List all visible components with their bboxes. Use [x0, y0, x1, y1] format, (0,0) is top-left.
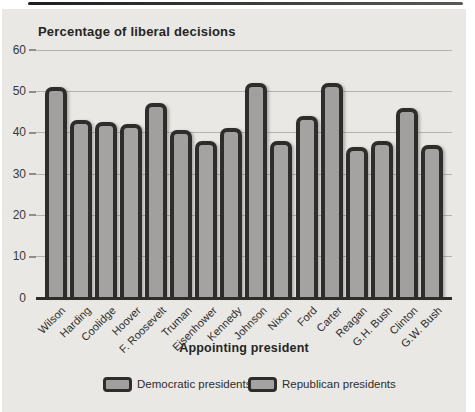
bar-hoover	[120, 124, 142, 297]
legend-label-republican: Republican presidents	[282, 378, 396, 390]
y-tick-label-40: 40	[0, 126, 26, 138]
y-tick-label-20: 20	[0, 209, 26, 221]
gridline-y-60	[33, 50, 452, 51]
y-tick-mark-30	[29, 173, 36, 175]
x-axis-baseline	[36, 297, 452, 300]
y-tick-label-30: 30	[0, 168, 26, 180]
chart-title: Percentage of liberal decisions	[38, 24, 236, 39]
legend-label-democratic: Democratic presidents	[137, 378, 251, 390]
bar-clinton	[396, 108, 418, 298]
y-tick-mark-50	[29, 91, 36, 93]
bar-g-w-bush	[421, 145, 443, 298]
gridline-y-50	[33, 91, 452, 92]
bar-johnson	[245, 83, 267, 298]
bar-coolidge	[95, 122, 117, 298]
liberal-decisions-bar-chart: Percentage of liberal decisions 01020304…	[0, 0, 475, 412]
bar-wilson	[45, 87, 67, 298]
bar-carter	[321, 83, 343, 298]
y-tick-label-0: 0	[0, 292, 26, 304]
y-tick-label-10: 10	[0, 250, 26, 262]
legend-swatch-republican	[248, 377, 277, 392]
bar-g-h-bush	[371, 141, 393, 298]
y-tick-label-50: 50	[0, 85, 26, 97]
bar-reagan	[346, 147, 368, 298]
y-tick-label-60: 60	[0, 44, 26, 56]
bar-truman	[170, 130, 192, 297]
y-tick-mark-40	[29, 132, 36, 134]
x-axis-title: Appointing president	[36, 341, 452, 355]
bar-nixon	[270, 141, 292, 298]
bar-ford	[296, 116, 318, 298]
y-tick-mark-60	[29, 49, 36, 51]
bar-harding	[70, 120, 92, 298]
bar-f-roosevelt	[145, 103, 167, 297]
y-tick-mark-20	[29, 214, 36, 216]
bar-kennedy	[220, 128, 242, 297]
bar-eisenhower	[195, 141, 217, 298]
scan-edge-artifact	[28, 2, 463, 5]
legend-swatch-democratic	[103, 377, 132, 392]
y-tick-mark-10	[29, 256, 36, 258]
